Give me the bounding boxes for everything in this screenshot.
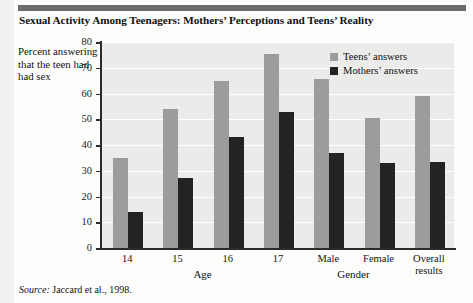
legend-label-mothers: Mothers’ answers: [343, 65, 418, 76]
y-axis-tick-label: 60: [66, 89, 92, 100]
bar-teens-overall-results: [415, 96, 430, 248]
legend-item-mothers: Mothers’ answers: [330, 64, 418, 77]
source-note: Source: Jaccard et al., 1998.: [19, 284, 132, 295]
x-axis-section-label-age: Age: [158, 268, 248, 280]
bar-teens-17: [264, 54, 279, 248]
bar-mothers-male: [329, 153, 344, 248]
y-axis-tick-label: 70: [66, 63, 92, 74]
y-axis-tick: [96, 42, 100, 44]
bar-teens-16: [214, 81, 229, 248]
x-axis-section-label-gender: Gender: [308, 268, 398, 280]
legend-label-teens: Teens’ answers: [343, 51, 407, 62]
source-text: Jaccard et al., 1998.: [50, 284, 132, 295]
y-axis-tick: [96, 222, 100, 224]
y-axis-tick-label: 50: [66, 114, 92, 125]
bar-mothers-17: [279, 112, 294, 248]
y-axis-tick: [96, 145, 100, 147]
y-axis-tick-label: 40: [66, 140, 92, 151]
legend-item-teens: Teens’ answers: [330, 50, 418, 63]
y-axis-tick: [96, 119, 100, 121]
legend-swatch-icon-mothers: [330, 67, 338, 75]
gridline: [102, 42, 454, 43]
chart-legend: Teens’ answers Mothers’ answers: [330, 50, 418, 78]
bar-teens-14: [113, 158, 128, 248]
bar-mothers-16: [229, 137, 244, 248]
x-axis-label-overall-results: Overallresults: [398, 253, 460, 277]
bar-mothers-female: [380, 163, 395, 248]
y-axis-tick-label: 0: [66, 243, 92, 254]
legend-swatch-icon-teens: [330, 53, 338, 61]
y-axis-tick-label: 30: [66, 166, 92, 177]
y-axis-tick: [96, 94, 100, 96]
y-axis-tick: [96, 68, 100, 70]
bar-mothers-14: [128, 212, 143, 248]
x-axis-line: [100, 248, 456, 250]
y-axis-line: [100, 41, 102, 249]
y-axis-tick: [96, 197, 100, 199]
y-axis-tick-label: 10: [66, 217, 92, 228]
y-axis-tick-label: 20: [66, 192, 92, 203]
y-axis-tick: [96, 248, 100, 250]
source-prefix: Source:: [19, 284, 50, 295]
bar-mothers-15: [178, 178, 193, 248]
figure-page: Sexual Activity Among Teenagers: Mothers…: [0, 0, 473, 303]
y-axis-tick: [96, 171, 100, 173]
bar-mothers-overall-results: [430, 162, 445, 248]
y-axis-tick-label: 80: [66, 37, 92, 48]
bar-teens-male: [314, 79, 329, 248]
bar-teens-15: [163, 109, 178, 248]
bar-teens-female: [365, 118, 380, 248]
bar-chart: 01020304050607080 14151617MaleFemaleOver…: [0, 0, 473, 303]
